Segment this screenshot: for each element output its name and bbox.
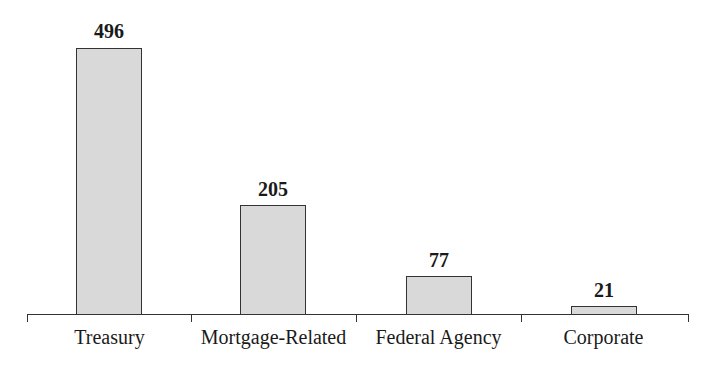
- bar-mortgage-related: [240, 205, 306, 315]
- bar-federal-agency: [406, 276, 472, 315]
- x-axis-tick: [356, 314, 357, 322]
- x-axis-tick: [191, 314, 192, 322]
- value-label-treasury: 496: [69, 20, 149, 43]
- category-label-corporate: Corporate: [521, 326, 686, 349]
- value-label-corporate: 21: [564, 279, 644, 302]
- bar-treasury: [76, 48, 142, 315]
- value-label-mortgage-related: 205: [233, 178, 313, 201]
- value-label-federal-agency: 77: [399, 249, 479, 272]
- bar-chart: 496 205 77 21 Treasury Mortgage-Related …: [0, 0, 716, 370]
- category-label-treasury: Treasury: [27, 326, 192, 349]
- x-axis-tick: [688, 314, 689, 322]
- category-label-federal-agency: Federal Agency: [356, 326, 521, 349]
- x-axis-tick: [27, 314, 28, 322]
- x-axis: [27, 314, 689, 315]
- x-axis-tick: [521, 314, 522, 322]
- category-label-mortgage-related: Mortgage-Related: [191, 326, 356, 349]
